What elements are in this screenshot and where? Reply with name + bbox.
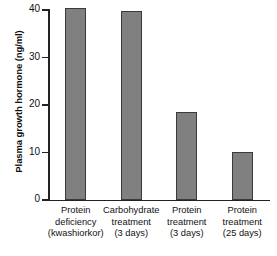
y-axis-tick-label: 10	[0, 147, 40, 157]
bar	[232, 152, 253, 200]
x-axis-category-labels: Proteindeficiency(kwashiorkor)Carbohydra…	[48, 205, 270, 255]
y-axis-tick-label: 40	[0, 4, 40, 14]
x-axis-category-label-line: treatment	[209, 217, 277, 229]
bar-chart: Plasma growth hormone (ng/ml) 010203040 …	[0, 0, 277, 256]
y-axis-tick-label: 20	[0, 99, 40, 109]
x-axis-category-label-line: Protein	[209, 205, 277, 217]
x-axis-category-label: Proteintreatment(25 days)	[209, 205, 277, 240]
bar	[176, 112, 197, 200]
y-axis-tick-label: 0	[0, 194, 40, 204]
y-axis-tick-label: 30	[0, 52, 40, 62]
bar	[121, 11, 142, 200]
x-axis-category-label-line: (25 days)	[209, 228, 277, 240]
bar	[65, 8, 86, 200]
